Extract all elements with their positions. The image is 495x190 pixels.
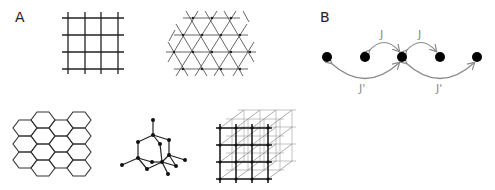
triangular-lattice — [166, 11, 256, 76]
chain-site-1 — [322, 52, 332, 62]
chain-site-5 — [472, 52, 482, 62]
chain-site-2 — [360, 52, 370, 62]
j-label-left: J — [379, 28, 383, 41]
j-coupling-arrow-right — [406, 43, 436, 52]
jprime-coupling-arrow-left — [331, 63, 399, 79]
chain-sites — [322, 52, 482, 62]
j-coupling-arrow-left — [369, 43, 399, 52]
jprime-label-left: J' — [358, 82, 365, 95]
square-lattice — [62, 12, 124, 74]
cubic-lattice — [216, 110, 296, 183]
chain-site-4 — [435, 52, 445, 62]
j-label-right: J — [417, 28, 421, 41]
jprime-coupling-arrow-right — [406, 63, 474, 79]
honeycomb-lattice — [13, 112, 91, 176]
chain-site-3 — [397, 52, 407, 62]
jprime-label-right: J' — [435, 82, 442, 95]
